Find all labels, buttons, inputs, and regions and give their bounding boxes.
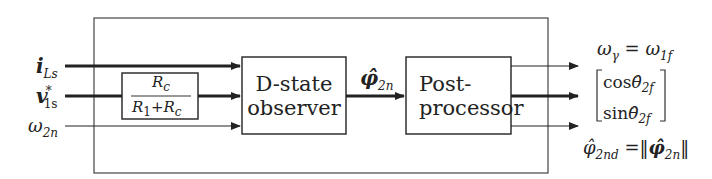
input-label-i-ls: iLs — [36, 54, 58, 81]
gain-numerator: Rc — [152, 73, 170, 94]
observer-block: D-state observer — [242, 57, 346, 134]
post-processor-block: Post- processor — [406, 57, 511, 134]
bracket-right — [660, 70, 665, 121]
input-label-omega-2n: ω2n — [28, 115, 58, 140]
gain-denominator: R1+Rc — [132, 98, 182, 119]
output-omega-label: ωγ = ω1f — [597, 38, 672, 63]
input-label-v1s-star: v*1s — [36, 84, 67, 111]
phi-2n-label: φ̂2n — [360, 66, 393, 93]
output-magnitude-label: φ̂2nd =‖φ̂2n‖ — [583, 137, 689, 162]
output-vector-label: cosθ̂2f sinθ̂2f — [603, 70, 654, 133]
bracket-left — [597, 70, 602, 121]
